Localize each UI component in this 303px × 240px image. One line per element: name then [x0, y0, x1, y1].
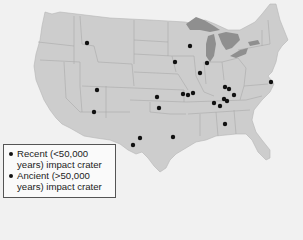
dot-icon — [9, 152, 13, 156]
crater-marker — [212, 101, 216, 105]
crater-marker — [227, 87, 231, 91]
legend-label-recent: Recent (<50,000 years) impact crater — [17, 148, 111, 170]
crater-marker — [186, 93, 190, 97]
legend-item-ancient: Ancient (>50,000 years) impact crater — [9, 170, 111, 192]
crater-marker — [138, 136, 142, 140]
crater-marker — [223, 122, 227, 126]
crater-marker — [181, 92, 185, 96]
legend-label-ancient: Ancient (>50,000 years) impact crater — [17, 170, 111, 192]
crater-marker — [155, 95, 159, 99]
crater-marker — [191, 91, 195, 95]
crater-marker — [131, 143, 135, 147]
crater-marker — [232, 93, 236, 97]
crater-marker — [218, 104, 222, 108]
crater-marker — [171, 135, 175, 139]
crater-marker — [223, 85, 227, 89]
crater-marker — [205, 61, 209, 65]
crater-marker — [225, 99, 229, 103]
legend-item-recent: Recent (<50,000 years) impact crater — [9, 148, 111, 170]
crater-marker — [188, 44, 192, 48]
crater-marker — [173, 60, 177, 64]
crater-marker — [95, 88, 99, 92]
crater-marker — [85, 41, 89, 45]
crater-marker — [198, 71, 202, 75]
crater-marker — [92, 110, 96, 114]
crater-marker — [269, 80, 273, 84]
dot-icon — [9, 174, 13, 178]
crater-marker — [157, 106, 161, 110]
legend: Recent (<50,000 years) impact crater Anc… — [3, 144, 116, 198]
